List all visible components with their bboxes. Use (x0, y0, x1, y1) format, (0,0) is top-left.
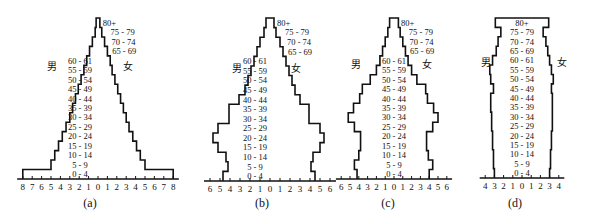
chart-caption: (d) (508, 196, 522, 210)
age-group-label: 15 - 19 (510, 140, 534, 150)
x-tick-label: 0 (520, 181, 525, 191)
age-group-label: 25 - 29 (510, 121, 534, 131)
sex-label-male: 男 (481, 57, 491, 68)
age-group-label: 70 - 74 (510, 37, 535, 47)
x-tick-label: 2 (538, 181, 543, 191)
x-tick-label: 1 (529, 181, 534, 191)
age-group-label: 30 - 34 (510, 112, 535, 122)
age-group-label: 55 - 59 (510, 65, 534, 75)
age-group-label: 50 - 54 (510, 74, 535, 84)
age-group-label: 0 - 4 (514, 168, 530, 178)
age-group-label: 40 - 44 (510, 93, 535, 103)
x-tick-label: 3 (547, 181, 552, 191)
x-tick-label: 4 (483, 181, 488, 191)
age-group-label: 35 - 39 (510, 102, 534, 112)
age-group-label: 20 - 24 (510, 131, 535, 141)
age-group-label: 5 - 9 (514, 159, 530, 169)
x-tick-label: 1 (511, 181, 516, 191)
age-group-label: 45 - 49 (510, 84, 534, 94)
age-group-label: 65 - 69 (510, 46, 534, 56)
x-tick-label: 3 (492, 181, 497, 191)
age-group-label: 80+ (515, 18, 529, 28)
x-tick-label: 2 (501, 181, 506, 191)
age-group-label: 75 - 79 (510, 27, 534, 37)
sex-label-female: 女 (557, 56, 567, 68)
age-group-label: 10 - 14 (510, 149, 535, 159)
pyramid-svg: 4321012340 - 45 - 910 - 1415 - 1920 - 24… (0, 0, 592, 220)
x-tick-label: 4 (557, 181, 562, 191)
age-group-label: 60 - 61 (510, 55, 534, 65)
